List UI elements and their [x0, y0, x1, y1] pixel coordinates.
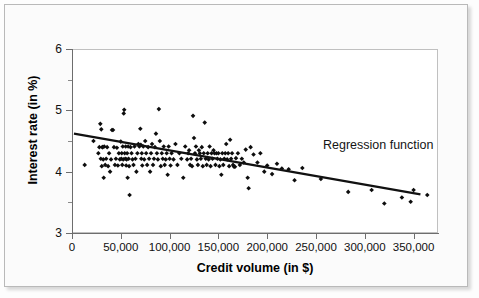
scanned-page-frame: 3456 050,000100,000150,000200,000250,000…	[4, 4, 468, 287]
y-axis-label: Interest rate (in %)	[26, 50, 40, 210]
figure-root: 3456 050,000100,000150,000200,000250,000…	[0, 0, 479, 298]
scatter-chart: 3456 050,000100,000150,000200,000250,000…	[5, 5, 467, 286]
x-axis-label: Credit volume (in $)	[72, 261, 438, 275]
regression-function-annotation: Regression function	[323, 139, 433, 152]
